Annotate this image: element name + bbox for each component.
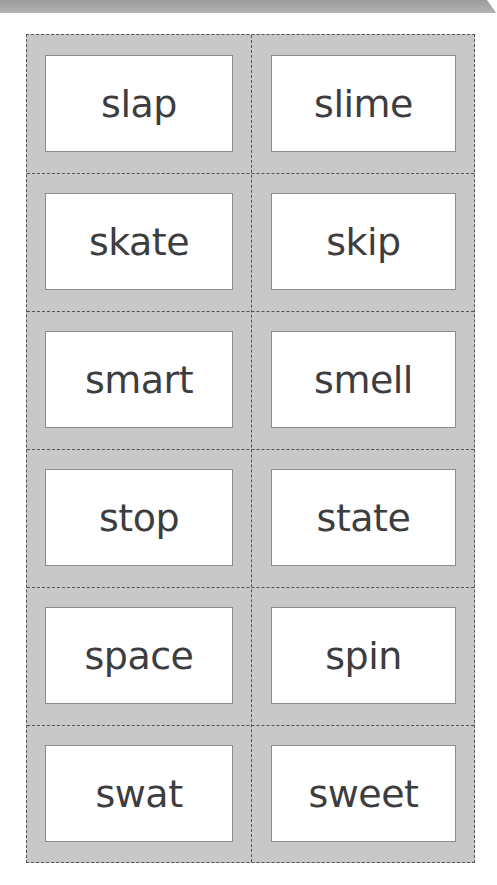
- word-card: smell: [271, 331, 456, 428]
- word-card: spin: [271, 607, 456, 704]
- horizontal-cut-line: [27, 725, 474, 726]
- word-card: smart: [45, 331, 233, 428]
- word-card: stop: [45, 469, 233, 566]
- word-card-sheet: slap slime skate skip smart smell stop s…: [26, 34, 475, 863]
- word-card: slime: [271, 55, 456, 152]
- word-card: sweet: [271, 745, 456, 842]
- word-card: slap: [45, 55, 233, 152]
- horizontal-cut-line: [27, 449, 474, 450]
- word-card: skip: [271, 193, 456, 290]
- horizontal-cut-line: [27, 173, 474, 174]
- top-banner: [0, 0, 497, 13]
- word-card: space: [45, 607, 233, 704]
- horizontal-cut-line: [27, 587, 474, 588]
- word-card: skate: [45, 193, 233, 290]
- page-curl: [487, 0, 497, 14]
- horizontal-cut-line: [27, 311, 474, 312]
- word-card: state: [271, 469, 456, 566]
- word-card: swat: [45, 745, 233, 842]
